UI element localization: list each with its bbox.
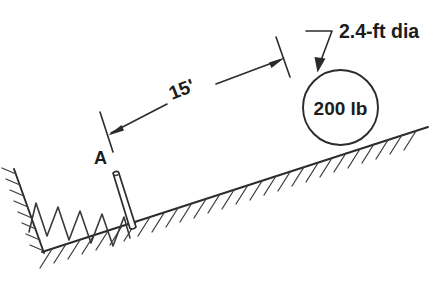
dimension-extension-right: [276, 37, 290, 77]
ball-weight-label: 200 lb: [314, 98, 368, 119]
dimension-extension-left: [100, 112, 113, 152]
leader-line-diameter: [306, 31, 332, 73]
dimension-line-15ft: [108, 58, 285, 136]
diagram-canvas: 15' A 200 lb 2.4-ft dia: [0, 0, 441, 283]
dimension-label-15ft: 15': [166, 75, 198, 104]
point-label-a: A: [94, 148, 107, 168]
diameter-label: 2.4-ft dia: [339, 20, 419, 42]
mechanics-diagram: 15' A 200 lb 2.4-ft dia: [0, 0, 441, 283]
inclined-plane-surface: [42, 127, 428, 252]
